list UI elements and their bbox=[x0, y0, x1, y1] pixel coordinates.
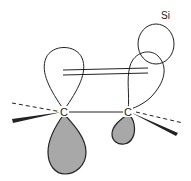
silicon-orbital bbox=[138, 24, 174, 64]
wedge-bond-left bbox=[12, 112, 62, 123]
dashed-bond-left bbox=[12, 103, 62, 112]
p-orbital-right-lower bbox=[112, 114, 135, 144]
silicon-label: Si bbox=[161, 10, 170, 21]
p-orbital-left-lower bbox=[48, 114, 86, 174]
pi-overlap-line-2 bbox=[63, 73, 148, 75]
wedge-bond-right bbox=[130, 112, 178, 136]
dashed-bond-right bbox=[136, 112, 183, 123]
carbon-left-label: C bbox=[60, 106, 68, 118]
pi-overlap-line-1 bbox=[63, 68, 148, 70]
carbon-right-label: C bbox=[124, 106, 132, 118]
orbital-diagram: C C Si bbox=[0, 0, 191, 181]
p-orbital-left-upper bbox=[44, 48, 84, 111]
